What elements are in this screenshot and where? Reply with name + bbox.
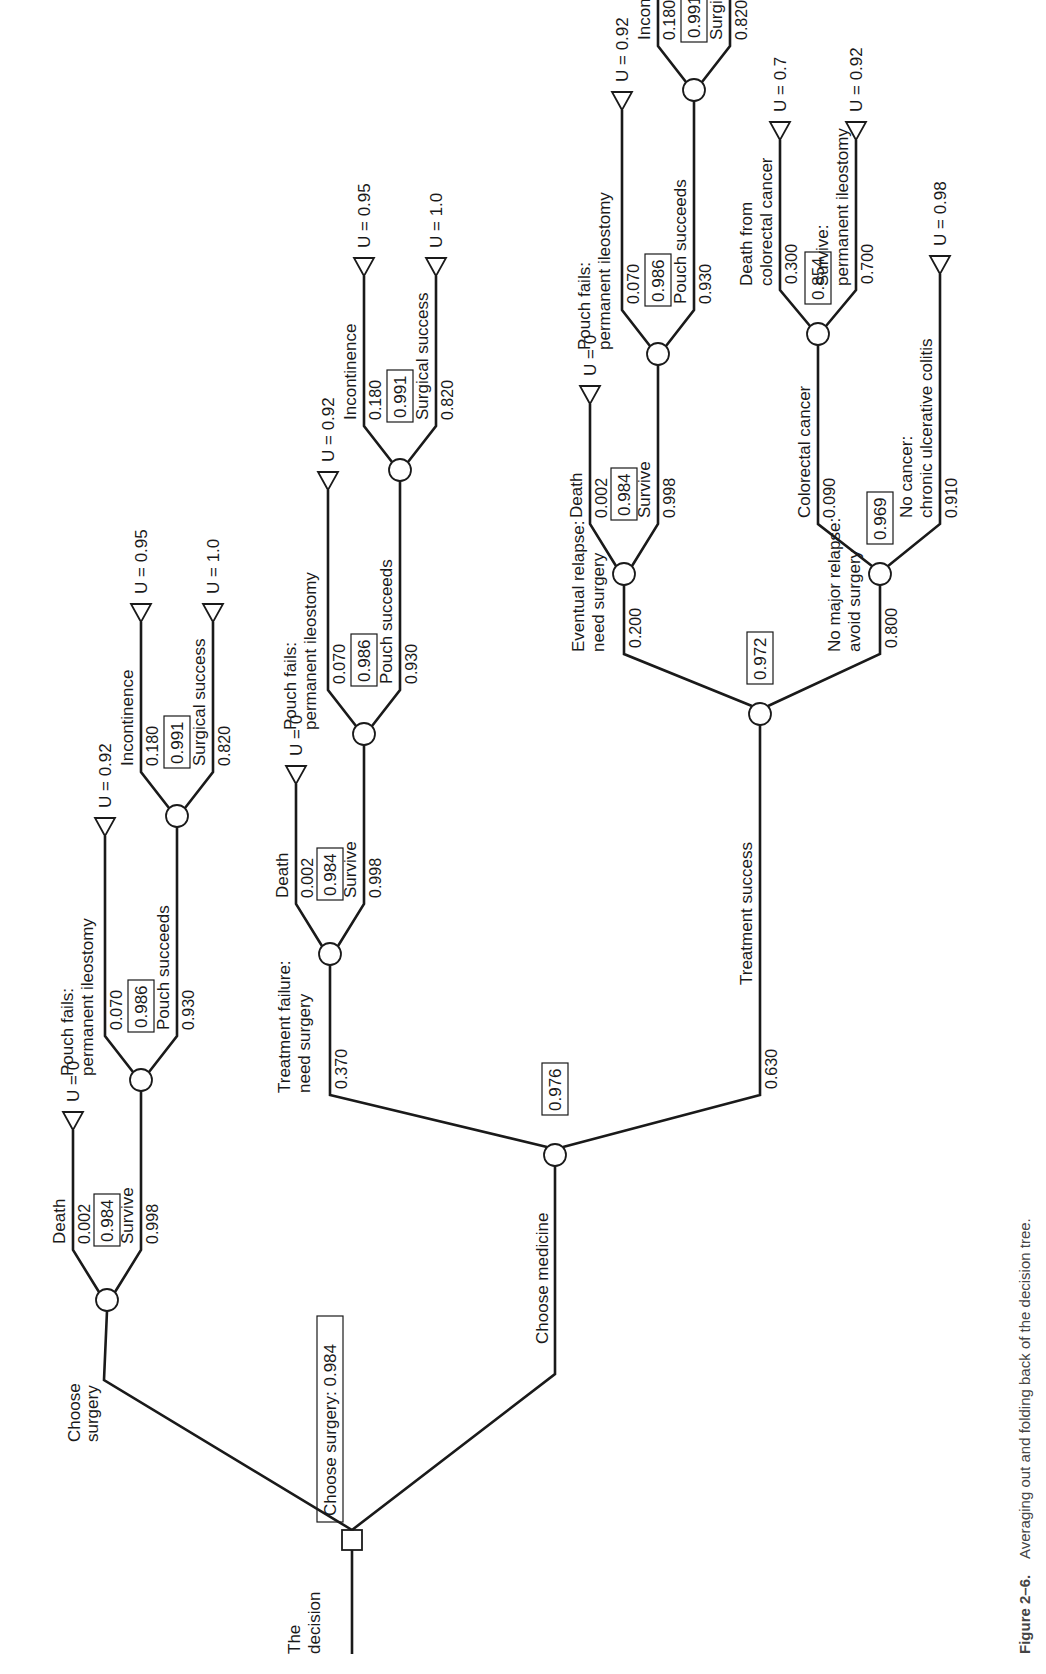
branch-label: Choose	[65, 1383, 84, 1442]
branch-label: No cancer:	[897, 436, 916, 518]
expected-value: 0.986	[355, 639, 374, 682]
branch-label: 0.002	[299, 858, 316, 898]
branch-label: 0.180	[661, 0, 678, 40]
utility-label: U = 0.92	[613, 17, 632, 82]
branch-label: Survive	[341, 841, 360, 898]
branch-label: avoid surgery	[845, 549, 864, 652]
branch-label: Death	[273, 853, 292, 898]
branch-label: 0.180	[144, 726, 161, 766]
branch-label: Treatment failure:	[275, 960, 294, 1093]
branch-label: chronic ulcerative colitis	[917, 338, 936, 518]
branch-label: 0.930	[697, 264, 714, 304]
chance-node-circle	[389, 459, 411, 481]
root-decision: The decision Choose surgery: 0.984	[285, 1316, 362, 1654]
branch-label: Pouch fails:	[281, 642, 300, 730]
chance-node-circle	[96, 1289, 118, 1311]
decision-node-square	[342, 1530, 362, 1550]
branch-label: Colorectal cancer	[795, 385, 814, 518]
chance-node-circle	[319, 943, 341, 965]
decision-tree-figure: The decision Choose surgery: 0.984 Choos…	[0, 0, 1046, 1674]
branch-label: 0.002	[76, 1204, 93, 1244]
terminal-node-triangle	[580, 386, 600, 404]
terminal-node-triangle	[131, 604, 151, 622]
branch-label: 0.998	[661, 478, 678, 518]
branch-label: Death	[567, 473, 586, 518]
branch-label: permanent ileostomy	[833, 128, 852, 286]
terminal-node-triangle	[770, 122, 790, 140]
expected-value: 0.984	[98, 1199, 117, 1242]
chance-node-circle	[869, 563, 891, 585]
branch-label: colorectal cancer	[757, 157, 776, 286]
terminal-node-triangle	[203, 604, 223, 622]
treatment-failure-subtree: Death0.002U = 00.984Survive0.998Pouch fa…	[273, 183, 456, 965]
branch-label: Death from	[737, 202, 756, 286]
utility-label: U = 0.92	[319, 397, 338, 462]
branch-label: Surgical success	[707, 0, 726, 40]
branch-label: need surgery	[295, 993, 314, 1093]
utility-label: U = 0.7	[771, 57, 790, 112]
chance-node-circle	[544, 1144, 566, 1166]
branch-label: surgery	[83, 1385, 102, 1442]
chance-node-circle	[683, 79, 705, 101]
root-label: The	[285, 1625, 304, 1654]
branch-label: Pouch succeeds	[154, 905, 173, 1030]
chance-node-circle	[807, 323, 829, 345]
chance-node-circle	[749, 703, 771, 725]
branch-label: 0.820	[439, 380, 456, 420]
branch-label: Pouch fails:	[575, 262, 594, 350]
branch-label: Pouch fails:	[58, 988, 77, 1076]
surgery-subtree: Death0.002U = 00.984Survive0.998Pouch fa…	[50, 529, 233, 1311]
branch-label: 0.930	[180, 990, 197, 1030]
branch-label: Surgical success	[413, 292, 432, 420]
terminal-node-triangle	[63, 1112, 83, 1130]
root-branches: ChoosesurgeryChoose medicine	[65, 1166, 555, 1530]
utility-label: U = 1.0	[427, 193, 446, 248]
utility-label: U = 1.0	[204, 539, 223, 594]
branch-label: Pouch succeeds	[377, 559, 396, 684]
branch-label: 0.180	[367, 380, 384, 420]
branch-label: Treatment success	[737, 842, 756, 985]
branch-label: Survive	[118, 1187, 137, 1244]
branch-label: 0.700	[859, 244, 876, 284]
branch-label: need surgery	[589, 552, 608, 652]
branch-label: 0.370	[333, 1049, 350, 1089]
branch-label: 0.070	[625, 264, 642, 304]
branch-label: 0.070	[331, 644, 348, 684]
branch-label: 0.930	[403, 644, 420, 684]
branch-label: 0.200	[627, 608, 644, 648]
chance-node-circle	[647, 343, 669, 365]
expected-value: 0.972	[751, 637, 770, 680]
terminal-node-triangle	[930, 256, 950, 274]
expected-value: 0.991	[391, 375, 410, 418]
terminal-node-triangle	[354, 258, 374, 276]
branch-label: Incontinence	[341, 324, 360, 420]
branch-label: 0.998	[144, 1204, 161, 1244]
terminal-node-triangle	[612, 92, 632, 110]
branch-label: Survive:	[813, 225, 832, 286]
branch-label: permanent ileostomy	[78, 918, 97, 1076]
expected-value: 0.986	[132, 985, 151, 1028]
expected-value: 0.991	[168, 721, 187, 764]
branch-label: 0.910	[943, 478, 960, 518]
utility-label: U = 0.95	[132, 529, 151, 594]
utility-label: U = 0.95	[355, 183, 374, 248]
branch-label: 0.300	[783, 244, 800, 284]
branch-label: 0.820	[733, 0, 750, 40]
eventual-relapse-subtree: Death0.002U = 00.984Survive0.998Pouch fa…	[567, 0, 750, 585]
expected-value: 0.991	[685, 0, 704, 38]
terminal-node-triangle	[426, 258, 446, 276]
branch-label: 0.090	[821, 478, 838, 518]
expected-value: 0.986	[649, 259, 668, 302]
branch-label: Death	[50, 1199, 69, 1244]
branch-label: Choose medicine	[533, 1213, 552, 1344]
branch-label: 0.630	[763, 1049, 780, 1089]
branch-label: 0.002	[593, 478, 610, 518]
branch-label: Survive	[635, 461, 654, 518]
chance-node-circle	[353, 723, 375, 745]
caption-text: Averaging out and folding back of the de…	[1016, 1218, 1033, 1559]
root-result: Choose surgery: 0.984	[321, 1344, 340, 1516]
branch-label: permanent ileostomy	[595, 192, 614, 350]
expected-value: 0.969	[871, 497, 890, 540]
branch-label: Pouch succeeds	[671, 179, 690, 304]
branch-label: 0.998	[367, 858, 384, 898]
